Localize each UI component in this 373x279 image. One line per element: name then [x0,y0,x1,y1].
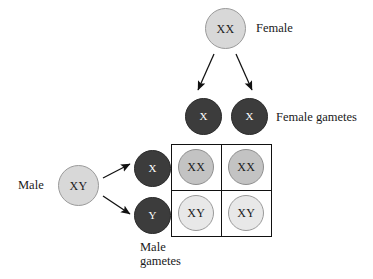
offspring-genotype-row1-col2: XX [237,161,255,173]
punnett-cell-row2-col1: XY [172,191,222,237]
arrow-male-to-gamete-x [103,164,130,178]
male-gamete-x-genotype: X [148,163,156,174]
female-parent-genotype: XX [217,23,235,35]
female-gamete-2-genotype: X [245,111,253,122]
male-parent-genotype: XY [70,180,88,192]
offspring-circle-row2-col1: XY [178,195,214,231]
male-gametes-label-line2: gametes [140,254,210,268]
female-parent-circle: XX [205,8,246,49]
arrow-female-to-gamete-right [236,54,252,90]
male-gamete-circle-y: Y [134,197,171,234]
punnett-cell-row1-col2: XX [222,145,272,191]
offspring-circle-row1-col2: XX [228,149,264,185]
arrow-female-to-gamete-left [198,54,214,90]
offspring-genotype-row1-col1: XX [187,161,205,173]
offspring-circle-row1-col1: XX [178,149,214,185]
punnett-cell-row2-col2: XY [222,191,272,237]
arrow-male-to-gamete-y [103,196,130,214]
male-gametes-label-line1: Male [140,240,210,254]
offspring-genotype-row2-col1: XY [187,207,205,219]
punnett-cell-row1-col1: XX [172,145,222,191]
arrows-layer [0,0,373,279]
punnett-square-diagram: XX Female X X Female gametes Male XY X Y… [0,0,373,279]
male-gamete-y-genotype: Y [148,210,156,221]
male-gametes-label: Male gametes [140,240,210,268]
female-parent-label: Female [256,21,293,35]
male-parent-circle: XY [58,165,99,206]
female-gamete-1-genotype: X [199,111,207,122]
male-parent-label: Male [18,178,44,192]
female-gamete-circle-1: X [185,98,222,135]
female-gamete-circle-2: X [231,98,268,135]
punnett-grid: XX XX XY XY [171,144,272,237]
offspring-genotype-row2-col2: XY [237,207,255,219]
offspring-circle-row2-col2: XY [228,195,264,231]
male-gamete-circle-x: X [134,150,171,187]
female-gametes-label: Female gametes [276,110,357,124]
